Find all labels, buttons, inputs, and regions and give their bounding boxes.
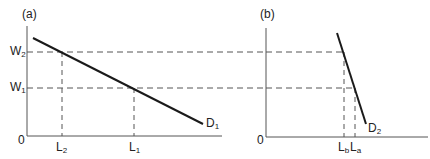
diagram-canvas xyxy=(0,0,430,159)
lb-label: Lb xyxy=(338,141,349,155)
la-label: La xyxy=(350,141,361,155)
l1-label: L1 xyxy=(129,141,140,155)
d2-label: D2 xyxy=(368,122,381,136)
l2-label: L2 xyxy=(56,141,67,155)
d1-label: D1 xyxy=(206,117,219,131)
w1-label: W1 xyxy=(10,81,26,95)
demand-curve-d1 xyxy=(33,38,203,124)
panel-b-label: (b) xyxy=(260,8,275,20)
origin-a: 0 xyxy=(18,134,25,146)
origin-b: 0 xyxy=(257,134,264,146)
w2-label: W2 xyxy=(10,45,26,59)
panel-a-label: (a) xyxy=(22,8,37,20)
